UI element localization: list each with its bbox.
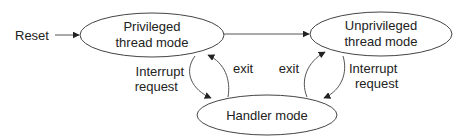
state-label-line1: Privileged — [123, 19, 180, 34]
state-label-line1: Unprivileged — [345, 18, 417, 33]
arrow-handler-to-unprivileged — [304, 52, 325, 97]
state-label-line2: thread mode — [345, 34, 418, 49]
state-privileged-thread-mode: Privileged thread mode — [80, 13, 224, 57]
arrow-unprivileged-to-handler — [324, 56, 345, 98]
transition-label-interrupt-line2: request — [135, 79, 179, 94]
state-label-line2: thread mode — [116, 35, 189, 50]
reset-label: Reset — [15, 28, 49, 43]
state-unprivileged-thread-mode: Unprivileged thread mode — [310, 12, 452, 56]
arrow-handler-to-privileged — [208, 55, 229, 97]
transition-label-interrupt-line1: Interrupt — [136, 64, 185, 79]
arrow-privileged-to-handler — [190, 56, 211, 98]
transition-label-interrupt-line2: request — [355, 76, 399, 91]
state-diagram: Reset Privileged thread mode Unprivilege… — [0, 0, 464, 140]
transition-label-exit: exit — [233, 61, 254, 76]
transition-label-interrupt-line1: Interrupt — [349, 61, 398, 76]
state-handler-mode: Handler mode — [197, 95, 337, 135]
transition-label-exit: exit — [279, 61, 300, 76]
state-label: Handler mode — [226, 108, 308, 123]
